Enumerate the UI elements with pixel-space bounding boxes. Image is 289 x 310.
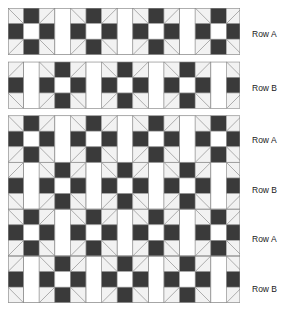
quilt-cell-corner-triangle	[258, 93, 274, 109]
quilt-cell-light	[148, 131, 164, 147]
sashing-strip	[211, 62, 227, 109]
sashing-strip	[148, 162, 164, 209]
quilt-cell-dark	[180, 62, 196, 78]
quilt-section-legend-strip-row-a	[0, 8, 289, 55]
quilt-row-b	[0, 256, 289, 303]
quilt-cell-dark	[148, 116, 164, 132]
quilt-cell-dark	[24, 240, 40, 256]
triangle-seam-line	[258, 194, 274, 210]
quilt-cell-light	[24, 225, 40, 241]
quilt-cell-dark	[102, 24, 118, 40]
quilt-cell-dark	[117, 93, 133, 109]
quilt-cell-dark	[148, 39, 164, 55]
quilt-cell-dark	[164, 272, 180, 288]
sashing-strip	[55, 8, 71, 55]
quilt-cell-dark	[24, 8, 40, 24]
triangle-seam-line	[258, 62, 274, 78]
quilt-cell-dark	[8, 24, 24, 40]
quilt-cell-dark	[55, 162, 71, 178]
sashing-strip	[117, 8, 133, 55]
quilt-cell-dark	[102, 272, 118, 288]
quilt-cell-light	[211, 131, 227, 147]
quilt-cell-dark	[273, 39, 289, 55]
quilt-cell-dark	[86, 8, 102, 24]
quilt-cell-dark	[133, 24, 149, 40]
quilt-cell-dark	[195, 272, 211, 288]
triangle-seam-line	[258, 39, 274, 55]
quilt-cell-dark	[117, 62, 133, 78]
quilt-cell-corner-triangle	[258, 209, 274, 225]
quilt-cell-light	[0, 178, 8, 194]
quilt-cell-dark	[70, 178, 86, 194]
quilt-cell-corner-triangle	[258, 39, 274, 55]
sashing-strip	[86, 62, 102, 109]
triangle-seam-line	[258, 116, 274, 132]
quilt-cell-dark	[164, 24, 180, 40]
quilt-cell-corner-triangle	[258, 116, 274, 132]
quilt-cell-light	[211, 225, 227, 241]
quilt-cell-dark	[211, 209, 227, 225]
quilt-cell-light	[24, 24, 40, 40]
quilt-cell-dark	[148, 8, 164, 24]
quilt-cell-light	[0, 272, 8, 288]
quilt-cell-dark	[8, 272, 24, 288]
quilt-cell-dark	[86, 209, 102, 225]
quilt-cell-corner-triangle	[258, 62, 274, 78]
sashing-strip	[117, 209, 133, 256]
sashing-strip	[24, 162, 40, 209]
sashing-strip	[148, 256, 164, 303]
quilt-cell-dark	[24, 116, 40, 132]
quilt-cell-dark	[55, 256, 71, 272]
row-label-4: Row A	[252, 234, 277, 244]
quilt-cell-light	[117, 178, 133, 194]
quilt-cell-dark	[102, 77, 118, 93]
quilt-cell-corner-triangle	[258, 147, 274, 163]
quilt-cell-dark	[117, 194, 133, 210]
quilt-cell-dark	[211, 39, 227, 55]
quilt-row-a	[0, 8, 289, 55]
sashing-strip	[24, 256, 40, 303]
sashing-strip	[148, 62, 164, 109]
quilt-cell-light	[86, 131, 102, 147]
quilt-cell-dark	[70, 24, 86, 40]
quilt-cell-dark	[164, 225, 180, 241]
quilt-cell-dark	[102, 131, 118, 147]
quilt-cell-dark	[273, 147, 289, 163]
quilt-cell-dark	[133, 225, 149, 241]
quilt-cell-dark	[0, 194, 8, 210]
quilt-cell-dark	[102, 178, 118, 194]
sashing-strip	[180, 116, 196, 163]
quilt-cell-dark	[242, 256, 258, 272]
quilt-cell-dark	[133, 272, 149, 288]
quilt-cell-dark	[55, 194, 71, 210]
quilt-cell-dark	[86, 116, 102, 132]
quilt-cell-light	[117, 77, 133, 93]
quilt-cell-dark	[0, 162, 8, 178]
sashing-strip	[180, 209, 196, 256]
quilt-cell-dark	[117, 256, 133, 272]
quilt-cell-dark	[39, 272, 55, 288]
quilt-cell-dark	[242, 194, 258, 210]
quilt-cell-light	[148, 225, 164, 241]
quilt-row-a	[0, 116, 289, 163]
row-label-5: Row B	[252, 284, 277, 294]
sashing-strip	[242, 209, 258, 256]
sashing-strip	[0, 209, 8, 256]
row-label-1: Row B	[252, 83, 277, 93]
quilt-cell-dark	[86, 240, 102, 256]
quilt-cell-dark	[180, 93, 196, 109]
quilt-cell-dark	[24, 147, 40, 163]
quilt-cell-light	[117, 272, 133, 288]
quilt-cell-dark	[70, 225, 86, 241]
quilt-cell-dark	[0, 62, 8, 78]
quilt-cell-corner-triangle	[258, 162, 274, 178]
quilt-cell-dark	[242, 62, 258, 78]
quilt-cell-dark	[242, 93, 258, 109]
quilt-cell-dark	[39, 225, 55, 241]
row-label-3: Row B	[252, 185, 277, 195]
quilt-cell-light	[24, 131, 40, 147]
quilt-cell-dark	[117, 287, 133, 303]
quilt-cell-light	[180, 272, 196, 288]
quilt-cell-dark	[0, 287, 8, 303]
quilt-row-b	[0, 162, 289, 209]
